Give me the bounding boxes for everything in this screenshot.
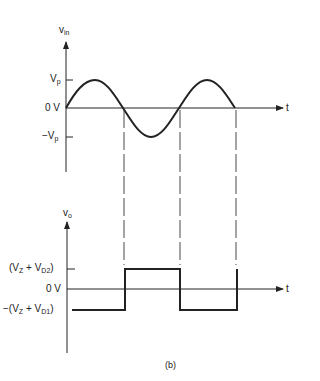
figure-caption: (b) <box>165 361 176 370</box>
bottom-graph <box>67 222 283 353</box>
bottom-t-axis-label: t <box>286 284 289 294</box>
top-t-axis-label: t <box>286 103 289 113</box>
high-level-tick-label: (VZ + VD2) <box>9 263 54 274</box>
waveform-diagram <box>0 0 320 381</box>
vp-tick-label: Vp <box>50 74 61 85</box>
top-zero-tick-label: 0 V <box>45 103 60 113</box>
top-graph <box>66 42 283 172</box>
vin-axis-label: vin <box>59 25 69 36</box>
vo-axis-label: vo <box>63 208 72 219</box>
bottom-zero-tick-label: 0 V <box>46 284 61 294</box>
neg-vp-tick-label: −Vp <box>42 131 58 142</box>
low-level-tick-label: −(VZ + VD1) <box>3 304 54 315</box>
